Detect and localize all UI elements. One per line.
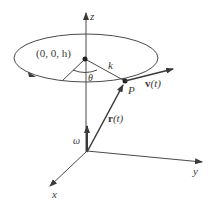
x-axis — [50, 151, 87, 186]
x-axis-label: x — [51, 188, 57, 200]
position-label: r(t) — [108, 112, 124, 125]
angle-arc — [73, 70, 97, 73]
z-axis-label: z — [89, 10, 95, 22]
velocity-label-arg: (t) — [151, 77, 162, 90]
y-axis — [87, 151, 202, 162]
angular-velocity-label: ω — [73, 135, 80, 146]
circular-motion-diagram: z (0, 0, h) k θ P v(t) r(t) ω y x — [0, 0, 216, 210]
point-p-label: P — [127, 84, 135, 96]
position-label-arg: (t) — [113, 112, 124, 125]
velocity-label: v(t) — [145, 77, 161, 90]
y-axis-label: y — [192, 165, 198, 177]
angle-label: θ — [88, 72, 93, 83]
center-point-label: (0, 0, h) — [36, 47, 71, 60]
radius-label: k — [108, 59, 114, 71]
center-point — [83, 57, 88, 62]
